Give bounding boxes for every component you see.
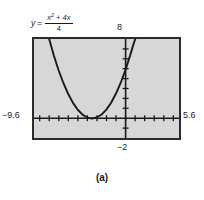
- parabola-curve: [49, 39, 135, 119]
- equation-fraction: x2 + 4x 4: [45, 14, 72, 32]
- equation-lhs: y: [31, 19, 35, 28]
- graph-svg: [34, 39, 179, 138]
- axis-label-xmin: −9.6: [2, 110, 20, 120]
- axis-label-ymin: −2: [117, 142, 127, 152]
- graphing-calculator-viewport: [32, 37, 181, 140]
- axis-label-ymax: 8: [117, 22, 122, 32]
- figure-caption: (a): [0, 172, 204, 183]
- equation-numerator: x2 + 4x: [45, 14, 72, 23]
- y-axis-group: [123, 39, 129, 138]
- equation-equals-sign: =: [37, 19, 42, 28]
- equation-denominator: 4: [57, 24, 61, 33]
- figure-container: y = x2 + 4x 4: [0, 0, 204, 200]
- x-axis-group: [34, 115, 179, 121]
- equation-label: y = x2 + 4x 4: [31, 14, 73, 32]
- axis-label-xmax: 5.6: [183, 110, 196, 120]
- numerator-rest: + 4x: [54, 13, 70, 22]
